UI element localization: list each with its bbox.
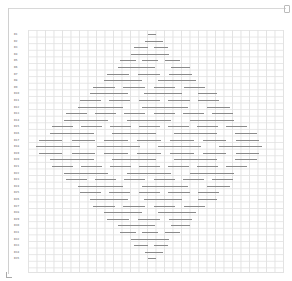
dash-segment [93,206,115,207]
dash-segment [100,186,123,187]
dash-segment [104,80,123,81]
dash-segment [145,41,163,42]
dash-segment [168,192,189,193]
dash-segment [64,173,87,174]
dash-segment [145,252,163,253]
dash-segment [109,192,130,193]
row-label: R31 [14,231,19,235]
top-border [8,8,286,9]
row-label: R4 [14,53,17,57]
dash-segment [142,107,165,108]
dash-segment [50,133,72,134]
row-label: R18 [14,145,19,149]
row-label: R15 [14,125,19,129]
row-label: R22 [14,172,19,176]
dash-segment [212,120,235,121]
dash-segment [112,159,134,160]
dash-segment [78,107,101,108]
row-label: R13 [14,112,19,116]
row-label: R26 [14,198,19,202]
dash-segment [154,47,168,48]
dash-segment [112,133,134,134]
dash-segment [120,60,136,61]
dash-segment [198,100,219,101]
dash-segment [80,192,101,193]
dash-segment [142,60,158,61]
dash-segment [52,166,73,167]
row-label: R11 [14,99,19,103]
dash-segment [236,153,260,154]
dash-segment [127,120,150,121]
dash-segment [97,146,119,147]
dash-segment [119,146,141,147]
dash-segment [158,80,177,81]
dash-segment [165,232,181,233]
row-label: R20 [14,158,19,162]
dash-segment [158,212,177,213]
dash-segment [123,206,145,207]
dash-segment [212,113,233,114]
dash-segment [163,93,182,94]
dash-segment [150,239,169,240]
dash-segment [72,140,96,141]
dash-segment [212,173,235,174]
dash-segment [176,80,195,81]
dash-segment [95,179,116,180]
row-label: R16 [14,132,19,136]
dash-segment [118,67,137,68]
dash-segment [154,245,168,246]
row-label: R5 [14,59,17,63]
row-label: R30 [14,224,19,228]
dash-segment [80,100,101,101]
dash-segment [58,146,80,147]
dash-segment [154,179,175,180]
dash-segment [168,100,189,101]
dash-segment [110,166,131,167]
dash-segment [139,100,160,101]
row-label: R21 [14,165,19,169]
dash-segment [148,34,157,35]
row-label: R3 [14,46,17,50]
dash-segment [138,74,160,75]
dash-segment [154,113,175,114]
dash-segment [219,146,241,147]
row-label: R33 [14,244,19,248]
dash-segment [150,54,169,55]
dash-segment [158,146,180,147]
dash-segment [170,140,194,141]
row-label: R8 [14,79,17,83]
dash-segment [123,212,142,213]
row-label: R25 [14,191,19,195]
dash-segment [212,179,233,180]
row-label: R28 [14,211,19,215]
dash-segment [171,67,190,68]
row-label: R17 [14,139,19,143]
row-label: R27 [14,205,19,209]
row-label: R7 [14,73,17,77]
dash-segment [66,179,87,180]
dash-segment [168,126,189,127]
dash-segment [127,173,150,174]
dash-segment [139,192,160,193]
dash-segment [226,166,247,167]
dash-segment [235,133,257,134]
dash-segment [139,126,160,127]
vertical-scrollbar[interactable] [8,8,9,274]
dash-segment [81,166,102,167]
dash-segment [197,166,218,167]
dash-segment [165,107,188,108]
row-label: R34 [14,251,19,255]
row-label: R14 [14,119,19,123]
dash-segment [124,179,145,180]
row-label: R9 [14,86,17,90]
resize-handle-icon[interactable] [284,5,290,13]
dash-segment [203,153,227,154]
dash-segment [183,113,204,114]
row-label: R29 [14,218,19,222]
dash-segment [136,225,155,226]
dash-segment [133,159,155,160]
dash-segment [197,126,218,127]
dash-segment [184,206,206,207]
dash-segment [179,146,201,147]
dash-segment [104,140,128,141]
